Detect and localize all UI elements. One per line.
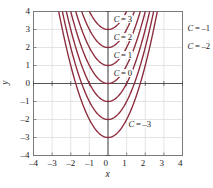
curve-label-0: C = 3 xyxy=(113,15,133,24)
x-tick-label: 1 xyxy=(122,159,127,168)
x-tick-label: –4 xyxy=(29,159,38,168)
x-axis-label: x xyxy=(106,170,110,180)
curve-label-1: C = 2 xyxy=(113,33,133,42)
x-tick-label: –2 xyxy=(66,159,75,168)
curve-label-4: C = –1 xyxy=(187,24,212,33)
y-tick-label: –1 xyxy=(21,97,30,106)
curve-label-3: C = 0 xyxy=(113,69,133,78)
x-tick-label: –1 xyxy=(85,159,94,168)
constant-value: = –2 xyxy=(193,41,210,51)
constant-value: = 3 xyxy=(119,14,132,24)
y-tick-label: –2 xyxy=(21,115,30,124)
y-tick-label: –4 xyxy=(21,151,30,160)
x-tick-label: 2 xyxy=(141,159,146,168)
y-tick-label: 2 xyxy=(26,43,31,52)
constant-value: = 2 xyxy=(119,32,132,42)
y-tick-label: 3 xyxy=(26,25,31,34)
constant-value: = –3 xyxy=(134,119,151,129)
constant-value: = –1 xyxy=(193,23,210,33)
x-tick-label: –3 xyxy=(48,159,57,168)
x-tick-label: 4 xyxy=(178,159,183,168)
x-tick-label: 0 xyxy=(104,159,109,168)
curve-label-5: C = –2 xyxy=(187,42,212,51)
y-tick-label: 0 xyxy=(26,79,31,88)
parabola-family-chart: –4–3–2–101234–4–3–2–101234xyC = 3C = 2C … xyxy=(0,0,213,188)
constant-value: = 0 xyxy=(119,68,132,78)
x-tick-label: 3 xyxy=(159,159,164,168)
y-tick-label: 4 xyxy=(26,7,31,16)
curve-label-6: C = –3 xyxy=(128,120,153,129)
y-tick-label: –3 xyxy=(21,133,30,142)
y-tick-label: 1 xyxy=(26,61,31,70)
y-axis-label: y xyxy=(1,80,11,84)
curve-label-2: C = 1 xyxy=(113,51,133,60)
constant-value: = 1 xyxy=(119,50,132,60)
